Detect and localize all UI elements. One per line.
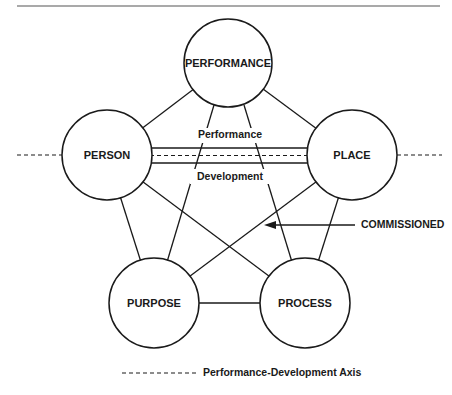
- node-place: PLACE: [307, 110, 397, 200]
- node-purpose-label: PURPOSE: [127, 297, 181, 309]
- node-performance: PERFORMANCE: [184, 19, 272, 107]
- node-place-label: PLACE: [333, 149, 370, 161]
- commissioned-label: COMMISSIONED: [361, 218, 445, 230]
- diagram-root: PERFORMANCE PERSON PLACE PURPOSE PROCESS…: [0, 0, 452, 395]
- axis-upper-label: Performance: [198, 128, 262, 140]
- node-person: PERSON: [62, 110, 152, 200]
- pentagon-diagram: PERFORMANCE PERSON PLACE PURPOSE PROCESS…: [0, 0, 452, 395]
- node-purpose: PURPOSE: [109, 258, 199, 348]
- node-performance-label: PERFORMANCE: [185, 57, 271, 69]
- commissioned-arrow-head-icon: [264, 221, 276, 229]
- node-process-label: PROCESS: [278, 297, 332, 309]
- node-person-label: PERSON: [84, 149, 131, 161]
- legend-label: Performance-Development Axis: [203, 366, 361, 378]
- node-process: PROCESS: [260, 258, 350, 348]
- axis-lower-label: Development: [197, 170, 263, 182]
